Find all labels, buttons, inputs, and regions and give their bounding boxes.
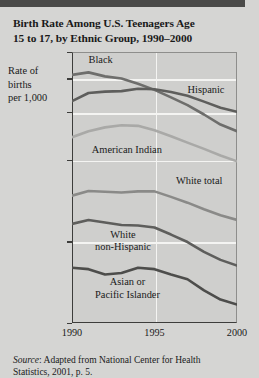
series-line-black — [72, 72, 237, 131]
series-label-american-indian: American Indian — [92, 144, 162, 157]
y-axis-tick-mark — [67, 78, 72, 79]
series-label-line: White — [95, 229, 151, 242]
y-axis-tick-mark — [67, 112, 72, 113]
y-axis-tick-mark — [67, 323, 72, 324]
series-label-black: Black — [89, 54, 113, 67]
series-label-line: Asian or — [95, 276, 160, 289]
x-axis-tick-label: 1995 — [133, 327, 177, 338]
series-label-white-total: White total — [176, 175, 222, 188]
top-band — [0, 0, 245, 7]
source-label: Source — [13, 355, 39, 365]
plot-area: 1008060402010199019952000BlackHispanicAm… — [0, 7, 245, 376]
figure-panel: Birth Rate Among U.S. Teenagers Age 15 t… — [0, 7, 245, 376]
series-label-asian-or-pacific-islander: Asian orPacific Islander — [95, 276, 160, 301]
x-axis-tick-label: 1990 — [50, 327, 94, 338]
series-label-white-non-hispanic: Whitenon-Hispanic — [95, 229, 151, 254]
series-line-white-total — [72, 191, 237, 220]
y-axis-tick-mark — [67, 160, 72, 161]
series-label-line: Hispanic — [188, 84, 225, 97]
y-axis-tick-mark — [67, 52, 72, 53]
series-label-line: American Indian — [92, 144, 162, 157]
y-axis-tick-mark — [67, 241, 72, 242]
series-label-line: non-Hispanic — [95, 241, 151, 254]
series-label-hispanic: Hispanic — [188, 84, 225, 97]
series-label-line: Black — [89, 54, 113, 67]
x-axis-tick-label: 2000 — [215, 327, 259, 338]
series-label-line: Pacific Islander — [95, 289, 160, 302]
source-note: Source: Adapted from National Center for… — [13, 354, 237, 378]
source-text-1: : Adapted from National Center for — [39, 355, 173, 365]
series-label-line: White total — [176, 175, 222, 188]
